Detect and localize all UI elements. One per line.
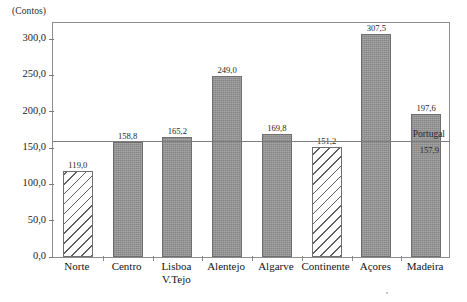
bar-value-label: 197,6 (416, 103, 435, 113)
x-axis-category-label: Algarve (258, 260, 293, 273)
bar: 169,8 (262, 134, 292, 257)
bar: 307,5 (361, 34, 391, 257)
y-axis-tick-label: 150,0 (22, 141, 46, 152)
y-axis-tick-label: 100,0 (22, 177, 46, 188)
bar-value-label: 158,8 (118, 131, 137, 141)
category-label-line2: V.Tejo (161, 273, 191, 286)
x-axis-category-label: LisboaV.Tejo (161, 260, 191, 285)
bar: 158,8 (113, 142, 143, 257)
x-axis-category-label: Norte (64, 260, 89, 273)
x-axis-category-label: Centro (112, 260, 142, 273)
y-axis-unit-label: (Contos) (12, 6, 46, 16)
bar-value-label: 307,5 (367, 23, 386, 33)
reference-line-value: 157,9 (420, 145, 439, 155)
bar-chart: (Contos) 0,050,0100,0150,0200,0250,0300,… (0, 0, 467, 302)
x-axis-category-label: Madeira (407, 260, 444, 273)
x-axis-category-label: Continente (301, 260, 349, 273)
bar: 249,0 (212, 76, 242, 257)
x-axis-category-label: Açores (360, 260, 391, 273)
category-label-line1: Lisboa (161, 260, 191, 272)
scan-artifact-dot (386, 292, 388, 294)
bar: 119,0 (63, 171, 93, 257)
bar-value-label: 119,0 (68, 160, 87, 170)
bar: 165,2 (162, 137, 192, 257)
bars-layer: 119,0158,8165,2249,0169,8151,2307,5197,6 (53, 23, 449, 257)
bar-value-label: 169,8 (267, 123, 286, 133)
reference-line-label: Portugal (413, 129, 445, 139)
category-label-line1: Norte (64, 260, 89, 272)
bar: 151,2 (312, 147, 342, 257)
category-label-line1: Madeira (407, 260, 444, 272)
category-label-line1: Continente (301, 260, 349, 272)
category-label-line1: Algarve (258, 260, 293, 272)
y-axis-tick-label: 50,0 (28, 214, 46, 225)
category-label-line1: Centro (112, 260, 142, 272)
x-axis-category-label: Alentejo (207, 260, 245, 273)
x-axis-category-labels: NorteCentroLisboaV.TejoAlentejoAlgarveCo… (52, 260, 450, 300)
y-axis-tick-label: 0,0 (33, 250, 46, 261)
y-axis-tick-label: 250,0 (22, 68, 46, 79)
bar-value-label: 249,0 (217, 65, 236, 75)
category-label-line1: Açores (360, 260, 391, 272)
bar-value-label: 165,2 (168, 126, 187, 136)
y-axis-tick-label: 300,0 (22, 32, 46, 43)
category-label-line1: Alentejo (207, 260, 245, 272)
portugal-reference-line: Portugal 157,9 (53, 141, 449, 142)
plot-area: 0,050,0100,0150,0200,0250,0300,0 119,015… (52, 22, 450, 258)
y-axis-tick-label: 200,0 (22, 105, 46, 116)
